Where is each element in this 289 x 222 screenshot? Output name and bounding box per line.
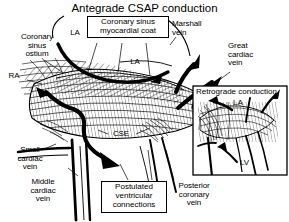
label-ra: RA	[4, 72, 24, 81]
label-la-top-left: LA	[66, 29, 84, 38]
inset-label-la: LA	[233, 99, 243, 108]
label-cse: CSE	[108, 130, 134, 139]
inset-label-lv: LV	[240, 159, 249, 168]
label-la-center: LA	[126, 58, 144, 67]
label-marshall-vein: Marshall vein	[172, 20, 216, 37]
inset-title: Retrograde conduction	[196, 87, 277, 96]
label-posterior-coronary-vein: Posterior coronary vein	[170, 182, 218, 208]
label-box-postulated-connections: Postulated ventricular connections	[101, 181, 167, 213]
label-middle-cardiac-vein: Middle cardiac vein	[18, 178, 68, 204]
figure-title: Antegrade CSAP conduction	[0, 2, 289, 14]
label-box-myocardial-coat: Coronary sinus myocardial coat	[87, 16, 169, 38]
label-great-cardiac-vein: Great cardiac vein	[228, 42, 276, 68]
label-small-cardiac-vein: Small cardiac vein	[6, 146, 54, 172]
anatomical-figure: Antegrade CSAP conduction Coronary sinus…	[0, 0, 289, 222]
label-coronary-sinus-ostium: Coronary sinus ostium	[8, 33, 66, 59]
